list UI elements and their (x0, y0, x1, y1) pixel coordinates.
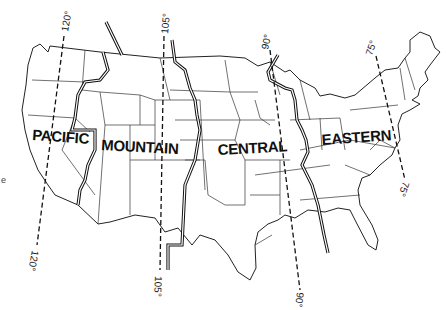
meridians (37, 36, 405, 290)
label-90-bottom: 90° (293, 292, 306, 308)
label-75-bottom: 75° (396, 180, 411, 198)
zone-label-eastern: EASTERN (321, 126, 392, 148)
label-120-top: 120° (59, 10, 73, 32)
zone-label-mountain: MOUNTAIN (101, 136, 179, 157)
label-105-bottom: 105° (152, 276, 164, 297)
label-90-top: 90° (259, 33, 273, 50)
zone-label-pacific: PACIFIC (32, 126, 90, 147)
label-75-top: 75° (363, 39, 378, 57)
stray-mark: e (1, 175, 6, 185)
label-105-top: 105° (159, 13, 172, 35)
zone-label-central: CENTRAL (217, 137, 287, 158)
time-zone-map: 120° 120° 105° 105° 90° 90° 75° 75° PACI… (0, 0, 446, 310)
label-120-bottom: 120° (26, 250, 40, 272)
meridian-90 (270, 50, 300, 290)
